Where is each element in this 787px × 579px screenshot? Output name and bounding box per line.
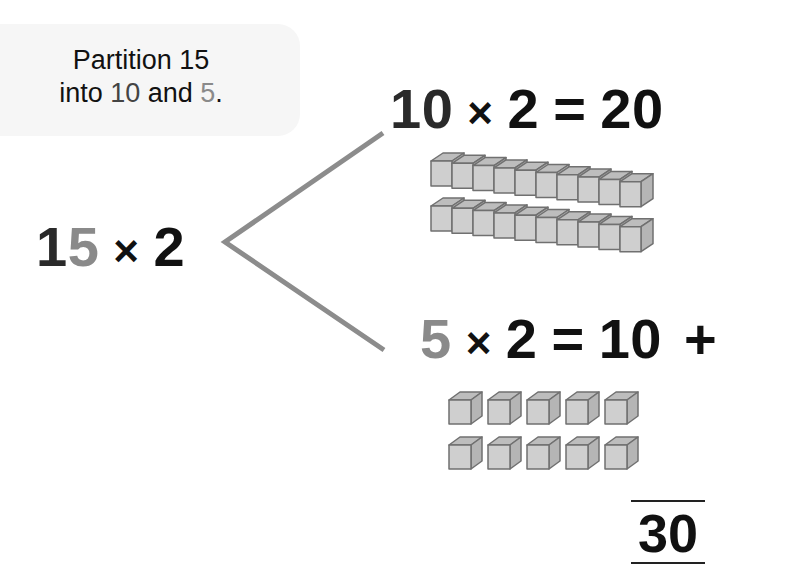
product-twenty: 20 bbox=[600, 76, 663, 141]
factor-five: 5 bbox=[420, 306, 452, 371]
bottom-branch-equation: 5×2=10+ bbox=[420, 306, 731, 371]
product-ten: 10 bbox=[599, 306, 662, 371]
branch-lines bbox=[225, 133, 384, 350]
top-branch-equation: 10×2=20 bbox=[390, 76, 664, 141]
factor-ten: 10 bbox=[390, 76, 453, 141]
plus-sign: + bbox=[684, 306, 717, 371]
tens-rods-icon bbox=[431, 153, 653, 252]
unit-cubes-icon bbox=[449, 392, 638, 469]
sum-total: 30 bbox=[631, 500, 705, 564]
